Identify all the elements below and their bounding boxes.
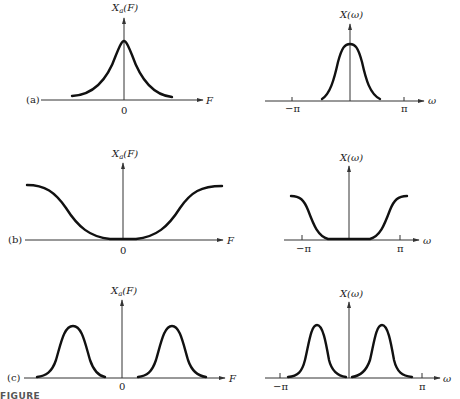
zero-label: 0 [121, 105, 127, 116]
spectrum-curve-left-lobe [288, 325, 346, 377]
zero-label: 0 [120, 245, 126, 256]
analog-spectrum-title: Xa(F) [110, 285, 137, 298]
omega-axis-label: ω [428, 95, 436, 106]
analog-spectrum-title: Xa(F) [111, 148, 138, 161]
f-axis-label: F [205, 95, 214, 106]
omega-axis-label: ω [423, 235, 431, 246]
caption-fragment: FIGURE [0, 391, 40, 399]
panel-b-analog: (b) F 0 Xa(F) [8, 148, 235, 256]
spectrum-curve-right-lobe [138, 326, 206, 377]
panel-a-digital: −π π ω X(ω) [265, 9, 436, 114]
panel-c-digital: −π π ω X(ω) [265, 288, 451, 392]
digital-spectrum-title: X(ω) [339, 288, 363, 299]
spectrum-curve-right-lobe [352, 325, 412, 377]
panel-a-analog: (a) F 0 Xa(F) [26, 2, 214, 116]
spectrum-curve [322, 44, 380, 99]
minus-pi-label: −π [296, 243, 311, 254]
row-label-a: (a) [26, 94, 40, 105]
digital-spectrum-title: X(ω) [339, 152, 363, 163]
digital-spectrum-title: X(ω) [339, 9, 363, 20]
minus-pi-label: −π [285, 103, 300, 114]
spectrum-curve [27, 185, 222, 239]
omega-axis-label: ω [443, 373, 451, 384]
spectrum-curve-left-lobe [37, 326, 105, 377]
f-axis-label: F [228, 373, 237, 384]
pi-label: π [401, 103, 408, 114]
analog-spectrum-title: Xa(F) [111, 2, 138, 15]
pi-label: π [397, 243, 404, 254]
row-label-b: (b) [8, 234, 22, 245]
row-label-c: (c) [7, 372, 21, 383]
spectrum-curve [72, 41, 172, 97]
panel-b-digital: −π π ω X(ω) [284, 152, 431, 254]
panel-c-analog: (c) F 0 Xa(F) [7, 285, 237, 392]
f-axis-label: F [226, 235, 235, 246]
figure-caption-cropped: FIGURE [0, 391, 460, 399]
